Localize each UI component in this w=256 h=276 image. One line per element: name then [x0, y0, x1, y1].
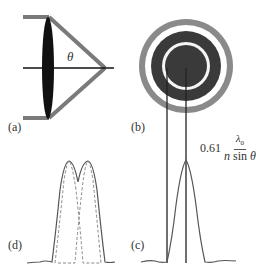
lower-converging-ray [49, 68, 105, 118]
left-dashed-profile [55, 161, 100, 263]
lens-icon [42, 17, 54, 119]
lambda-subscript: 0 [241, 139, 245, 147]
panel-label-c: (c) [131, 238, 144, 253]
formula-coefficient: 0.61 [200, 141, 221, 156]
theta-denominator: θ [250, 149, 256, 163]
upper-converging-ray [49, 17, 105, 68]
panel-label-a: (a) [8, 120, 21, 135]
resolution-formula: 0.61 λ0 n sin θ [200, 133, 256, 163]
theta-symbol: θ [67, 49, 73, 65]
refractive-index-symbol: n [224, 149, 230, 163]
panel-label-b: (b) [131, 120, 145, 135]
single-airy-profile [141, 160, 236, 262]
formula-fraction: λ0 n sin θ [224, 133, 256, 163]
formula-numerator: λ0 [234, 133, 246, 150]
formula-denominator: n sin θ [224, 150, 256, 163]
combined-profile [27, 161, 115, 263]
sine-function: sin [233, 149, 247, 163]
panel-label-d: (d) [8, 238, 22, 253]
lens-diagram [23, 17, 114, 119]
